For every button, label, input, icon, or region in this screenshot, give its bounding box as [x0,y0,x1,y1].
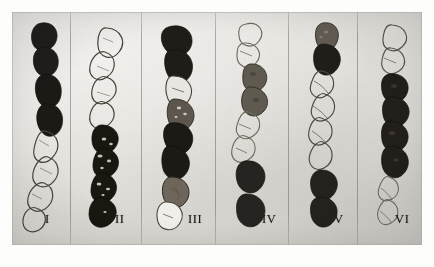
panel-5: V [289,12,357,245]
panel-1: I [12,12,70,245]
chromosome-chain-2 [83,24,135,234]
panel-label-6: VI [395,212,409,227]
photographic-plate: I [12,12,422,245]
panel-3: III [142,12,215,245]
chromosome-chain-4 [226,18,282,236]
figure-plate: I [0,0,434,267]
panel-label-3: III [188,212,202,227]
panel-label-2: II [115,212,125,227]
panel-label-1: I [45,212,50,227]
chromosome-chain-3 [152,20,208,235]
panel-label-5: V [334,212,344,227]
panel-6: VI [358,12,422,245]
panel-label-4: IV [262,212,276,227]
panel-2: II [71,12,141,245]
panel-4: IV [216,12,288,245]
chromosome-chain-6 [372,20,422,234]
chromosome-chain-5 [301,18,351,236]
chromosome-chain-1 [18,18,70,233]
